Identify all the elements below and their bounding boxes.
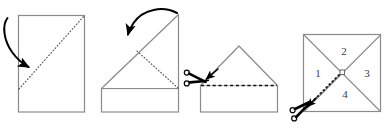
folded-triangle-outline xyxy=(102,15,179,89)
quadrant-label-3: 3 xyxy=(364,67,370,79)
paper-rectangle-outline xyxy=(19,16,85,113)
house-roof-triangle xyxy=(201,46,278,86)
panel-2-group xyxy=(102,9,179,112)
center-marker xyxy=(340,70,345,75)
quadrant-label-1: 1 xyxy=(315,67,321,79)
panel-3-group xyxy=(184,46,277,112)
paper-band-rectangle xyxy=(102,89,179,113)
house-body-rectangle xyxy=(201,86,278,113)
paper-folding-figure: Paper folding and cutting instruction di… xyxy=(0,0,385,128)
quadrant-label-2: 2 xyxy=(341,45,347,57)
quadrant-label-4: 4 xyxy=(342,88,348,100)
panel-1-group xyxy=(4,16,84,113)
figure-canvas: 1 2 3 4 xyxy=(0,0,385,128)
panel-4-group: 1 2 3 4 xyxy=(290,35,380,121)
